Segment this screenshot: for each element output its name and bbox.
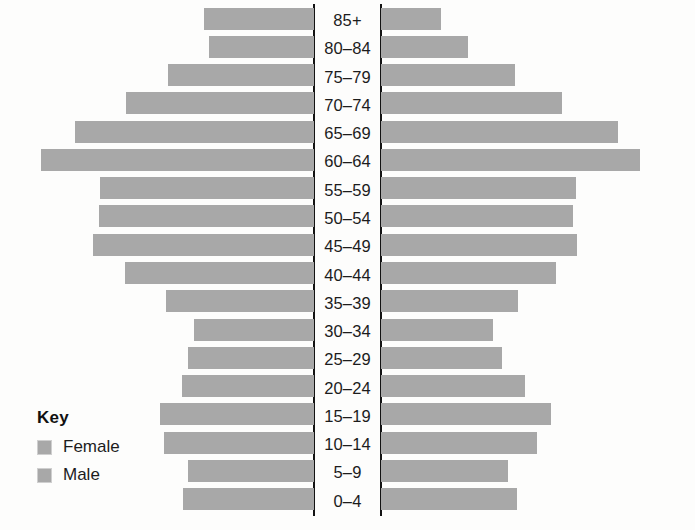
bar-female: [204, 8, 314, 30]
bar-male: [381, 92, 562, 114]
bar-female: [75, 121, 314, 143]
age-group-label: 75–79: [314, 63, 381, 91]
bar-female: [93, 234, 314, 256]
pyramid-row: 80–84: [0, 34, 695, 62]
pyramid-row: 75–79: [0, 63, 695, 91]
age-group-label: 0–4: [314, 487, 381, 515]
bar-female: [182, 375, 314, 397]
bar-male: [381, 488, 517, 510]
age-group-label: 60–64: [314, 147, 381, 175]
bar-male: [381, 290, 518, 312]
legend-swatch-female-icon: [37, 440, 52, 455]
bar-male: [381, 205, 573, 227]
bar-male: [381, 375, 525, 397]
age-group-label: 40–44: [314, 261, 381, 289]
pyramid-row: 65–69: [0, 119, 695, 147]
bar-male: [381, 432, 537, 454]
bar-female: [188, 347, 314, 369]
bar-male: [381, 347, 502, 369]
bar-female: [194, 319, 314, 341]
age-group-label: 65–69: [314, 119, 381, 147]
pyramid-row: 20–24: [0, 374, 695, 402]
bar-male: [381, 319, 493, 341]
legend-item-male: Male: [37, 465, 187, 485]
bar-male: [381, 403, 551, 425]
bar-female: [183, 488, 314, 510]
age-group-label: 5–9: [314, 458, 381, 486]
bar-male: [381, 64, 515, 86]
bar-male: [381, 149, 640, 171]
pyramid-row: 70–74: [0, 91, 695, 119]
legend-label-male: Male: [63, 465, 100, 485]
legend-title: Key: [37, 408, 187, 428]
pyramid-row: 35–39: [0, 289, 695, 317]
bar-female: [168, 64, 314, 86]
legend-swatch-male-icon: [37, 468, 52, 483]
age-group-label: 80–84: [314, 34, 381, 62]
age-group-label: 70–74: [314, 91, 381, 119]
bar-male: [381, 262, 556, 284]
bar-male: [381, 234, 577, 256]
bar-female: [41, 149, 314, 171]
pyramid-row: 85+: [0, 6, 695, 34]
bar-female: [125, 262, 314, 284]
pyramid-row: 50–54: [0, 204, 695, 232]
pyramid-row: 60–64: [0, 147, 695, 175]
bar-male: [381, 177, 576, 199]
age-group-label: 55–59: [314, 176, 381, 204]
age-group-label: 45–49: [314, 232, 381, 260]
bar-female: [188, 460, 314, 482]
age-group-label: 35–39: [314, 289, 381, 317]
pyramid-row: 40–44: [0, 261, 695, 289]
age-group-label: 85+: [314, 6, 381, 34]
pyramid-row: 45–49: [0, 232, 695, 260]
bar-female: [126, 92, 314, 114]
bar-male: [381, 8, 441, 30]
pyramid-row: 30–34: [0, 317, 695, 345]
bar-male: [381, 121, 618, 143]
age-group-label: 10–14: [314, 430, 381, 458]
pyramid-row: 55–59: [0, 176, 695, 204]
age-group-label: 50–54: [314, 204, 381, 232]
legend-label-female: Female: [63, 437, 120, 457]
bar-female: [100, 177, 314, 199]
legend: Key Female Male: [37, 408, 187, 493]
bar-female: [166, 290, 314, 312]
population-pyramid-chart: 85+80–8475–7970–7465–6960–6455–5950–5445…: [0, 0, 695, 530]
age-group-label: 30–34: [314, 317, 381, 345]
bar-female: [209, 36, 314, 58]
age-group-label: 20–24: [314, 374, 381, 402]
age-group-label: 25–29: [314, 345, 381, 373]
bar-male: [381, 36, 468, 58]
bar-female: [99, 205, 314, 227]
legend-item-female: Female: [37, 437, 187, 457]
bar-male: [381, 460, 508, 482]
pyramid-row: 25–29: [0, 345, 695, 373]
age-group-label: 15–19: [314, 402, 381, 430]
